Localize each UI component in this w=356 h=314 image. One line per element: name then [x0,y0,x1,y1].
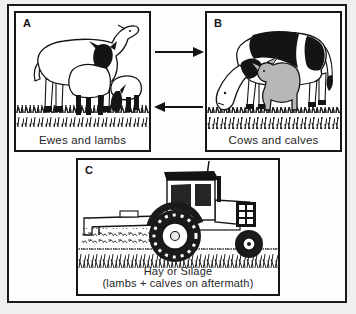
cows-and-calves-illustration [207,13,340,150]
panel-cows-and-calves: B [205,11,342,152]
panel-ewes-and-lambs: A [14,11,151,152]
panel-c-caption: Hay or Silage (lambs + calves on afterma… [78,265,278,291]
panel-c-caption-line2: (lambs + calves on aftermath) [78,277,278,290]
panel-a-letter: A [23,17,31,29]
arrow-b-to-a-icon [153,101,205,113]
ewes-and-lambs-illustration [16,13,149,150]
panel-hay-or-silage: C [76,158,280,296]
panel-c-letter: C [85,164,93,176]
rotation-figure: A [0,0,356,314]
panel-a-caption: Ewes and lambs [16,134,149,147]
arrow-a-to-b-icon [153,46,205,58]
panel-c-caption-line1: Hay or Silage [78,265,278,278]
panel-b-caption: Cows and calves [207,134,340,147]
panel-b-letter: B [214,17,222,29]
